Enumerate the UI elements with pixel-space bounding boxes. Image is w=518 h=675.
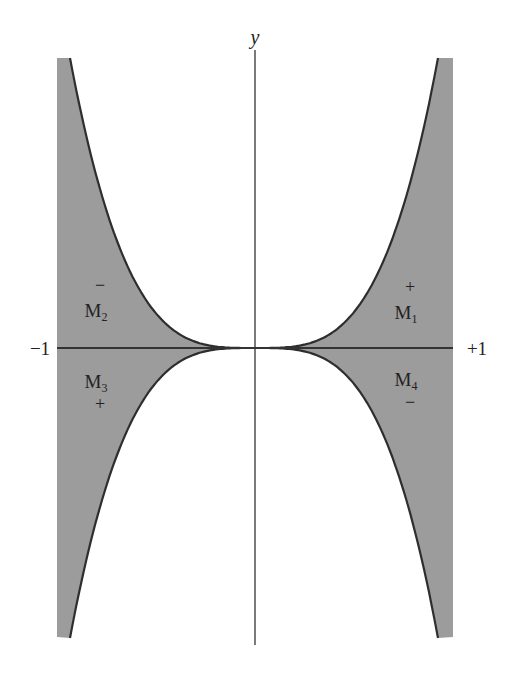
sign-m3: +: [95, 394, 105, 414]
sign-m2: −: [95, 275, 105, 295]
tick-plus-one: +1: [467, 338, 487, 359]
tick-minus-one: −1: [30, 338, 50, 359]
region-m1-shade: [255, 58, 453, 348]
y-axis-label: y: [249, 26, 260, 49]
sign-m4: −: [405, 392, 415, 412]
cusp-diagram: y −1 +1 + M1 − M2 M3 + M4 −: [0, 0, 518, 675]
region-m4-shade: [255, 348, 453, 638]
sign-m1: +: [405, 277, 415, 297]
